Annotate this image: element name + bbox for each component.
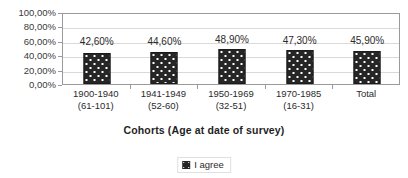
y-axis-tick-labels: 100,00% 80,00% 60,00% 40,00% 20,00% 0,00… (0, 13, 56, 85)
category-line-2: (16-31) (265, 100, 333, 112)
table-row[interactable] (218, 49, 245, 84)
x-axis-category-label: Total (332, 88, 400, 100)
bar-chart: 100,00% 80,00% 60,00% 40,00% 20,00% 0,00… (0, 0, 408, 178)
x-axis-category-label: 1941-1949 (52-60) (130, 88, 198, 112)
bar-slot: 42,60% (63, 14, 131, 84)
bar-value-label: 42,60% (80, 36, 114, 47)
x-axis-category-label: 1900-1940 (61-101) (62, 88, 130, 112)
x-axis-category-label: 1970-1985 (16-31) (265, 88, 333, 112)
dotted-square-marker-icon (182, 161, 190, 169)
table-row[interactable] (354, 51, 381, 84)
plot-area: 42,60% 44,60% 48,90% 47,30% 45,90% (62, 13, 400, 85)
x-axis-category-labels: 1900-1940 (61-101) 1941-1949 (52-60) 195… (62, 88, 400, 114)
bar-slot: 47,30% (266, 14, 334, 84)
category-line-1: 1900-1940 (73, 88, 118, 99)
y-axis-tick-mark (58, 85, 62, 86)
y-tick-label: 0,00% (0, 80, 56, 90)
category-line-1: Total (356, 88, 376, 99)
category-line-1: 1970-1985 (276, 88, 321, 99)
category-line-1: 1941-1949 (141, 88, 186, 99)
y-tick-label: 40,00% (0, 51, 56, 61)
category-line-1: 1950-1969 (208, 88, 253, 99)
table-row[interactable] (83, 53, 110, 84)
bar-slot: 44,60% (131, 14, 199, 84)
x-axis-category-label: 1950-1969 (32-51) (197, 88, 265, 112)
category-line-2: (61-101) (62, 100, 130, 112)
bar-value-label: 45,90% (350, 35, 384, 46)
bar-value-label: 44,60% (147, 36, 181, 47)
y-tick-label: 60,00% (0, 37, 56, 47)
bar-slot: 45,90% (333, 14, 401, 84)
bars-layer: 42,60% 44,60% 48,90% 47,30% 45,90% (63, 14, 399, 84)
category-line-2: (32-51) (197, 100, 265, 112)
x-axis-title: Cohorts (Age at date of survey) (0, 124, 408, 136)
bar-slot: 48,90% (198, 14, 266, 84)
bar-value-label: 47,30% (283, 35, 317, 46)
legend-item-label: I agree (194, 160, 224, 170)
y-tick-label: 100,00% (0, 8, 56, 18)
bar-value-label: 48,90% (215, 34, 249, 45)
table-row[interactable] (151, 52, 178, 84)
table-row[interactable] (286, 50, 313, 84)
legend[interactable]: I agree (177, 157, 231, 173)
y-tick-label: 80,00% (0, 22, 56, 32)
y-tick-label: 20,00% (0, 66, 56, 76)
category-line-2: (52-60) (130, 100, 198, 112)
